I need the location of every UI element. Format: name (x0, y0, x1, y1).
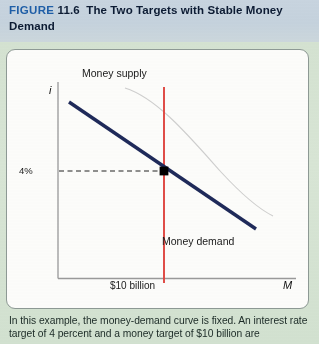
money-supply-label: Money supply (82, 68, 147, 79)
figure-header-text: FIGURE 11.6 The Two Targets with Stable … (9, 3, 309, 34)
equilibrium-point-marker (160, 167, 169, 176)
interest-rate-tick-label: 4% (19, 166, 33, 176)
chart-plot-area: Money supply Money demand 4% $10 billion… (7, 50, 309, 309)
figure-label-word: FIGURE (9, 4, 54, 16)
y-axis-title: i (49, 85, 51, 96)
figure-caption: In this example, the money-demand curve … (9, 314, 311, 341)
figure-number: 11.6 (58, 4, 80, 16)
scan-ghost-curve (125, 88, 273, 216)
figure-header-band: FIGURE 11.6 The Two Targets with Stable … (0, 0, 319, 42)
chart-panel: Money supply Money demand 4% $10 billion… (6, 49, 309, 309)
money-demand-label: Money demand (162, 236, 234, 247)
figure-root: FIGURE 11.6 The Two Targets with Stable … (0, 0, 319, 344)
chart-svg (7, 50, 309, 309)
money-quantity-tick-label: $10 billion (110, 281, 155, 291)
x-axis-title: M (283, 280, 292, 291)
money-demand-line (69, 102, 256, 229)
